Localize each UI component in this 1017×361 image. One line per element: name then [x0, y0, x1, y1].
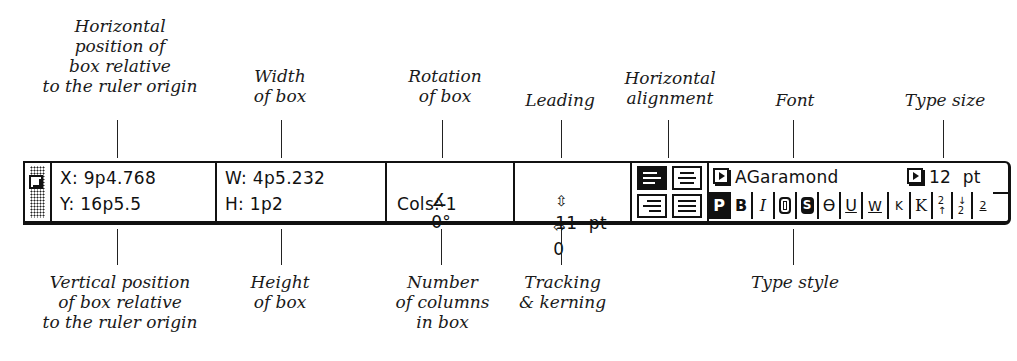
- style-bold-button[interactable]: B: [731, 192, 753, 219]
- leader-line: [441, 229, 442, 265]
- callout-horizontal-alignment: Horizontal alignment: [610, 68, 730, 108]
- callout-height: Height of box: [230, 272, 330, 312]
- leader-line: [281, 229, 282, 265]
- callout-font: Font: [760, 90, 830, 110]
- x-position-field[interactable]: X: 9p4.768: [60, 167, 156, 189]
- leader-line: [561, 229, 562, 265]
- style-strikethrough-button[interactable]: Ө: [819, 192, 841, 219]
- font-row: AGaramond 12 pt: [709, 163, 1008, 194]
- callout-columns: Number of columns in box: [380, 272, 505, 332]
- dotted-pattern: [30, 166, 45, 218]
- style-superscript-button[interactable]: 2↑: [933, 192, 953, 219]
- rotation-columns-group: ∡ 0° Cols: 1: [385, 163, 513, 221]
- align-justified-button[interactable]: [672, 194, 702, 218]
- tracking-value[interactable]: 0: [553, 239, 564, 259]
- style-italic-button[interactable]: I: [753, 192, 775, 219]
- height-field[interactable]: H: 1p2: [225, 193, 283, 215]
- font-style-group: AGaramond 12 pt P B I S Ө U W K K 2↑ ↓2 …: [707, 163, 1008, 221]
- style-outline-button[interactable]: [775, 192, 797, 219]
- palette-drag-handle[interactable]: [25, 163, 50, 221]
- callout-horizontal-position: Horizontal position of box relative to t…: [20, 16, 220, 96]
- font-name-field[interactable]: AGaramond: [735, 166, 839, 188]
- style-superior-button[interactable]: 2: [973, 192, 993, 219]
- shadow-icon: S: [801, 197, 814, 214]
- tracking-field[interactable]: ⬄ 0: [519, 193, 566, 282]
- style-shadow-button[interactable]: S: [797, 192, 819, 219]
- leading-tracking-group: ⇳ 11 pt ⬄ 0: [513, 163, 630, 221]
- callout-vertical-position: Vertical position of box relative to the…: [20, 272, 220, 332]
- outline-icon: [779, 197, 791, 214]
- callout-type-size: Type size: [895, 90, 995, 110]
- callout-leading: Leading: [515, 90, 605, 110]
- callout-rotation: Rotation of box: [390, 66, 500, 106]
- columns-field[interactable]: Cols: 1: [397, 193, 457, 215]
- leader-line: [668, 120, 669, 158]
- leader-line: [442, 120, 443, 158]
- leader-line: [117, 120, 118, 158]
- callout-tracking-kerning: Tracking & kerning: [510, 272, 615, 312]
- position-field-group: X: 9p4.768 Y: 16p5.5: [50, 163, 215, 221]
- align-center-button[interactable]: [672, 166, 702, 190]
- style-subscript-button[interactable]: ↓2: [953, 192, 973, 219]
- width-field[interactable]: W: 4p5.232: [225, 167, 325, 189]
- type-size-field[interactable]: 12 pt: [929, 166, 981, 188]
- leader-line: [117, 229, 118, 265]
- align-right-button[interactable]: [637, 194, 667, 218]
- leader-line: [561, 120, 562, 158]
- size-popup-arrow-icon[interactable]: [907, 168, 923, 184]
- leader-line: [943, 120, 944, 158]
- leader-line: [281, 120, 282, 158]
- font-popup-arrow-icon[interactable]: [713, 168, 729, 184]
- alignment-group: [630, 163, 707, 221]
- type-style-row: P B I S Ө U W K K 2↑ ↓2 2: [709, 192, 1008, 221]
- tracking-arrows-icon[interactable]: ⬄: [553, 218, 566, 236]
- style-plain-button[interactable]: P: [709, 192, 731, 219]
- leader-line: [793, 120, 794, 158]
- y-position-field[interactable]: Y: 16p5.5: [60, 193, 141, 215]
- style-small-caps-button[interactable]: K: [889, 192, 911, 219]
- size-field-group: W: 4p5.232 H: 1p2: [215, 163, 385, 221]
- subscript-icon: ↓2: [958, 196, 966, 216]
- style-word-underline-button[interactable]: W: [863, 192, 889, 219]
- measurements-palette: X: 9p4.768 Y: 16p5.5 W: 4p5.232 H: 1p2 ∡…: [23, 161, 1011, 225]
- leader-line: [793, 229, 794, 265]
- style-underline-button[interactable]: U: [841, 192, 863, 219]
- callout-type-style: Type style: [735, 272, 855, 292]
- close-box-icon[interactable]: [29, 175, 43, 189]
- align-left-button[interactable]: [637, 166, 667, 190]
- superscript-icon: 2↑: [938, 196, 946, 216]
- style-all-caps-button[interactable]: K: [911, 192, 933, 219]
- callout-width: Width of box: [230, 66, 330, 106]
